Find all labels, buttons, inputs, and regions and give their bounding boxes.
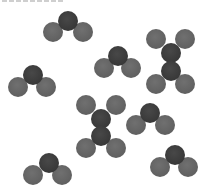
central-atom xyxy=(140,103,160,123)
outer-atom xyxy=(23,165,43,185)
central-atom xyxy=(165,145,185,165)
central-atom xyxy=(161,61,181,81)
central-atom xyxy=(161,43,181,63)
outer-atom xyxy=(106,95,126,115)
outer-atom xyxy=(146,29,166,49)
molecules-layer xyxy=(8,11,198,185)
central-atom xyxy=(58,11,78,31)
molecule-bent-triatomic xyxy=(94,46,141,78)
central-atom xyxy=(39,153,59,173)
outer-atom xyxy=(76,95,96,115)
molecule-ethylene-like xyxy=(76,95,126,158)
molecule-bent-triatomic xyxy=(23,153,72,185)
molecule-bent-triatomic xyxy=(126,103,175,135)
central-atom xyxy=(91,126,111,146)
central-atom xyxy=(23,65,43,85)
molecule-bent-triatomic xyxy=(8,65,56,97)
molecule-diagram xyxy=(0,0,202,191)
molecule-bent-triatomic xyxy=(43,11,93,42)
molecule-ethylene-like xyxy=(146,29,195,94)
molecule-bent-triatomic xyxy=(150,145,198,177)
central-atom xyxy=(108,46,128,66)
